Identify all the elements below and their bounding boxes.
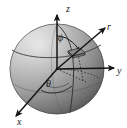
y-axis-label: y: [116, 65, 122, 76]
spherical-coordinates-figure: z y x r ϕ θ: [0, 0, 127, 128]
r-vector-label: r: [107, 21, 111, 32]
phi-angle-label: ϕ: [58, 32, 63, 43]
x-axis-label: x: [16, 116, 22, 127]
spherical-coordinate-diagram-canvas: z y x r ϕ θ: [0, 0, 127, 128]
z-axis-label: z: [65, 3, 70, 14]
y-axis-line: [57, 68, 114, 69]
theta-angle-label: θ: [46, 78, 51, 89]
origin-point: [56, 68, 59, 71]
